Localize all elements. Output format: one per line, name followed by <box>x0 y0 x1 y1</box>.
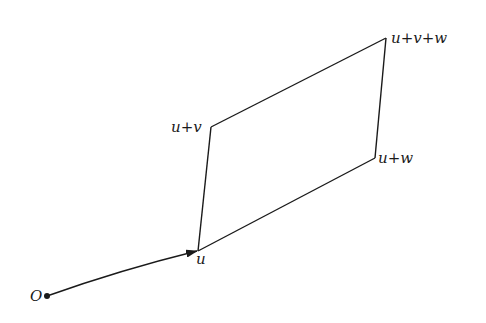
label-u-plus-v-plus-w: u+v+w <box>391 31 447 46</box>
parallelogram-diagram <box>0 0 486 323</box>
vector-u-arrow <box>47 251 197 296</box>
edge-u-to-u-plus-w <box>198 158 375 251</box>
origin-dot <box>44 293 50 299</box>
edge-u-to-u-plus-v <box>198 127 211 251</box>
label-u-plus-w: u+w <box>378 151 413 166</box>
label-origin: O <box>30 289 42 304</box>
edge-u-plus-w-to-u-plus-v-plus-w <box>375 38 386 158</box>
label-u: u <box>196 252 206 267</box>
edge-u-plus-v-to-u-plus-v-plus-w <box>211 38 386 127</box>
label-u-plus-v: u+v <box>171 120 202 135</box>
